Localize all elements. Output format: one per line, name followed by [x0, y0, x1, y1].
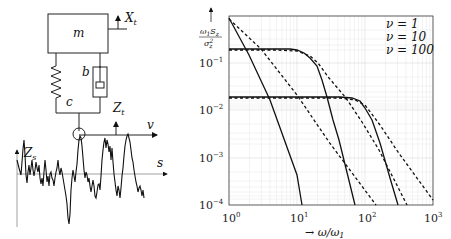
road-profile [17, 134, 144, 224]
spring-label: c [66, 95, 73, 109]
damper-piston [96, 82, 104, 88]
y-axis-ticks: 10−1 10−2 10−3 10−4 [199, 56, 224, 212]
legend-item-nu1: ν = 1 [386, 17, 419, 31]
svg-text:10−3: 10−3 [199, 151, 223, 165]
legend-item-nu10: ν = 10 [386, 30, 427, 44]
figure: m Xt c b Zt v Zs s [0, 0, 451, 239]
displacement-label: Xt [124, 11, 138, 27]
distance-label: s [157, 156, 163, 170]
curve-nu10-dashed [229, 50, 407, 205]
legend-item-nu100: ν = 100 [386, 43, 434, 57]
svg-text:103: 103 [424, 211, 442, 225]
tyre-label: Zt [112, 101, 125, 117]
mass-label: m [73, 26, 84, 40]
psd-chart: ν = 1 ν = 10 ν = 100 10−1 10−2 10−3 10−4… [199, 8, 442, 239]
curve-nu1-dashed [229, 19, 376, 205]
velocity-label: v [147, 118, 154, 132]
damper-label: b [82, 65, 90, 79]
quarter-car-schematic: m Xt c b Zt v Zs s [17, 11, 167, 227]
curve-nu100-solid [229, 97, 398, 205]
curve-nu10-solid [229, 49, 355, 205]
spring [51, 53, 61, 113]
x-axis-title: → ω/ω1 [305, 226, 344, 239]
svg-text:10−2: 10−2 [199, 103, 223, 117]
svg-text:10−1: 10−1 [199, 56, 223, 70]
svg-text:100: 100 [222, 211, 240, 225]
x-axis-ticks: 100 101 102 103 [222, 211, 442, 225]
legend: ν = 1 ν = 10 ν = 100 [386, 17, 434, 57]
y-axis-title: ω1Sz σ2z [199, 8, 222, 49]
svg-text:102: 102 [358, 211, 376, 225]
curve-nu1-solid [229, 18, 302, 205]
svg-text:ω1Sz: ω1Sz [200, 27, 220, 37]
svg-text:101: 101 [290, 211, 308, 225]
svg-text:σ2z: σ2z [204, 37, 213, 49]
svg-text:10−4: 10−4 [199, 198, 224, 212]
